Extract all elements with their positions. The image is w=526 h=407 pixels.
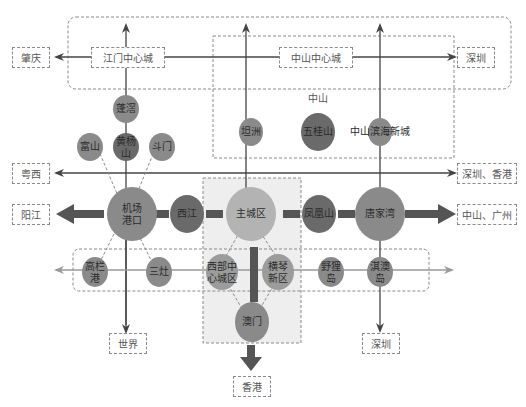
- node-gaolangang: 高栏港: [83, 261, 107, 284]
- thick-arrow-yangjiang: [56, 204, 104, 224]
- dest-zhongshan-guangzhou: 中山、广州: [457, 204, 517, 225]
- center-zhongshan-label: 中山中心城: [291, 50, 341, 65]
- node-lianxi: 蓬滘: [116, 103, 136, 115]
- dest-zhongshan-guangzhou-label: 中山、广州: [462, 207, 512, 222]
- thick-arrow-hongkong: [240, 345, 262, 371]
- dest-yangjiang-label: 阳江: [21, 207, 41, 222]
- center-zhongshan: 中山中心城: [279, 47, 353, 68]
- node-zhongshan-binhai: 中山滨海新城: [350, 126, 410, 138]
- dest-shenzhen-top-label: 深圳: [466, 50, 486, 65]
- node-wuguishan: 五桂山: [303, 126, 333, 138]
- node-west-center: 西部中心城区: [205, 261, 239, 284]
- dest-yuexi: 粤西: [12, 163, 50, 184]
- dest-hongkong-label: 香港: [242, 379, 262, 394]
- dest-zhaoqing-label: 肇庆: [21, 50, 41, 65]
- node-doumen: 斗门: [152, 141, 172, 153]
- node-huangyangshan: 黄杨山: [115, 136, 137, 159]
- dest-shenzhen-hk: 深圳、香港: [457, 163, 517, 184]
- node-hengqin: 横琴新区: [266, 261, 290, 284]
- node-fushan: 富山: [80, 141, 100, 153]
- dest-zhaoqing: 肇庆: [12, 47, 50, 68]
- node-yeli-island: 野狸岛: [319, 261, 343, 284]
- node-sanzao: 三灶: [149, 266, 169, 278]
- center-jiangmen: 江门中心城: [91, 47, 165, 68]
- dest-shenzhen-top: 深圳: [457, 47, 495, 68]
- dest-shenzhen-hk-label: 深圳、香港: [462, 166, 512, 181]
- node-tangjiawan: 唐家湾: [365, 208, 395, 220]
- dest-world: 世界: [109, 333, 147, 354]
- thick-arrow-zhongshan-guangzhou: [405, 204, 456, 224]
- node-tanzhou: 坦洲: [241, 126, 261, 138]
- dest-yangjiang: 阳江: [12, 204, 50, 225]
- dest-hongkong: 香港: [233, 376, 271, 397]
- dest-shenzhen-bottom-label: 深圳: [371, 336, 391, 351]
- zhongshan-group-label: 中山: [308, 93, 328, 105]
- node-main-city: 主城区: [236, 208, 266, 220]
- node-fenghuangshan: 凤凰山: [304, 208, 334, 220]
- center-jiangmen-label: 江门中心城: [103, 50, 153, 65]
- node-xijiang: 西江: [177, 208, 197, 220]
- diagram-canvas: [0, 0, 526, 407]
- node-qiao-island: 淇澳岛: [368, 261, 392, 284]
- dest-shenzhen-bottom: 深圳: [362, 333, 400, 354]
- dest-yuexi-label: 粤西: [21, 166, 41, 181]
- dest-world-label: 世界: [118, 336, 138, 351]
- node-macau: 澳门: [242, 316, 262, 328]
- node-airport-port: 机场港口: [120, 203, 144, 226]
